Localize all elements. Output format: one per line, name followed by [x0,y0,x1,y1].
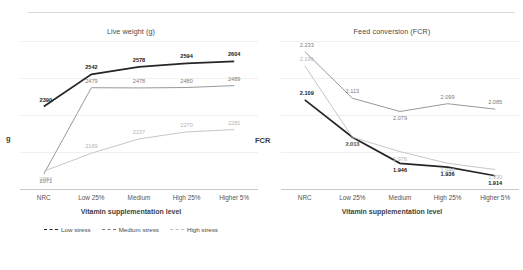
data-label: 2480 [180,78,192,84]
x-tick-label: Low 25% [68,194,116,206]
x-tick-label: NRC [20,194,68,206]
header-divider [28,12,515,13]
data-label: 2489 [228,76,240,82]
x-axis-ticks: NRCLow 25%MediumHigh 25%Higher 5% [20,194,258,206]
y-axis-label: g [6,134,11,143]
data-label: 2390 [40,97,52,103]
data-label: 2270 [180,122,192,128]
chart-feed-conversion: Feed conversion (FCR) FCR 2.1092.0131.94… [261,14,523,270]
data-label: 1.976 [393,156,407,162]
x-axis-title: Vitamin supplementation level [261,208,523,215]
x-tick-label: Medium [376,194,424,206]
legend-label: Medium stress [119,226,159,233]
data-label: 2.099 [441,94,455,100]
legend-swatch-icon [44,229,58,230]
y-axis-label: FCR [255,136,270,145]
x-tick-label: NRC [281,194,329,206]
data-label: 2604 [228,51,240,57]
data-label: 2169 [85,143,97,149]
x-axis-title: Vitamin supplementation level [0,208,262,215]
legend-item[interactable]: Medium stress [102,226,159,233]
legend-label: High stress [187,226,218,233]
legend-item[interactable]: Low stress [44,226,91,233]
data-label: 2479 [85,78,97,84]
chart-page: Live weight (g) g 2390254225782594260420… [0,0,523,270]
x-tick-label: Higher 5% [210,194,258,206]
data-label: 2594 [180,53,192,59]
legend-swatch-icon [170,229,184,230]
series-lines [20,41,258,193]
chart-legend: Low stressMedium stressHigh stress [0,226,262,233]
data-label: 1.930 [488,174,502,180]
legend-swatch-icon [102,229,116,230]
plot-area: 2.1092.0131.9461.9361.9142.2332.1132.079… [281,41,519,189]
chart-title: Live weight (g) [0,27,262,36]
data-label: 2542 [85,64,97,70]
chart-live-weight: Live weight (g) g 2390254225782594260420… [0,14,262,270]
x-axis-ticks: NRCLow 25%MediumHigh 25%Higher 5% [281,194,519,206]
plot-area: 2390254225782594260420712479247824802489… [20,41,258,189]
data-label: 2281 [228,120,240,126]
data-label: 2478 [133,78,145,84]
series-line [305,52,495,112]
legend-item[interactable]: High stress [170,226,218,233]
x-tick-label: High 25% [424,194,472,206]
series-line [44,130,234,172]
chart-title: Feed conversion (FCR) [261,27,523,36]
data-label: 1.914 [488,180,502,186]
data-label: 2084 [40,176,52,182]
data-label: 2578 [133,57,145,63]
data-label: 2.085 [488,99,502,105]
data-label: 2.196 [300,56,314,62]
x-tick-label: High 25% [163,194,211,206]
data-label: 2.113 [346,88,360,94]
data-label: 2.233 [300,42,314,48]
legend-label: Low stress [61,226,91,233]
x-tick-label: Low 25% [329,194,377,206]
data-label: 2.109 [300,90,314,96]
data-label: 2.013 [345,141,359,147]
data-label: 1.946 [393,167,407,173]
data-label: 2.079 [393,115,407,121]
data-label: 1.946 [441,167,455,173]
x-tick-label: Medium [115,194,163,206]
x-tick-label: Higher 5% [471,194,519,206]
data-label: 2237 [133,129,145,135]
